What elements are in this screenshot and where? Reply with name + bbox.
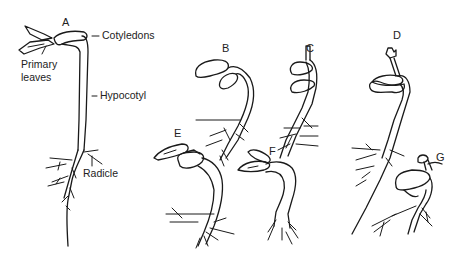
seedling-label-c: C <box>306 42 314 54</box>
seedling-e <box>154 144 234 248</box>
seedling-label-d: D <box>393 29 401 41</box>
seedling-label-g: G <box>436 151 445 163</box>
label-primary-leaves-line1: Primary <box>21 58 57 70</box>
seedling-label-a: A <box>62 16 69 28</box>
seedling-label-b: B <box>222 42 229 54</box>
seedling-d <box>352 48 410 234</box>
seedling-c <box>278 46 318 158</box>
seedling-b <box>196 60 254 166</box>
seedling-label-f: F <box>269 145 276 157</box>
label-cotyledons: Cotyledons <box>102 29 155 41</box>
label-hypocotyl: Hypocotyl <box>100 89 146 101</box>
seedling-g <box>372 155 442 236</box>
label-radicle: Radicle <box>83 167 118 179</box>
seedling-f <box>238 150 298 244</box>
label-primary-leaves-line2: leaves <box>21 71 51 83</box>
seedling-label-e: E <box>174 127 181 139</box>
